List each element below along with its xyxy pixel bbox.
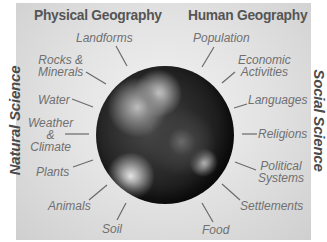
connector-landforms bbox=[116, 46, 127, 66]
label-weather-climate: Weather & Climate bbox=[28, 117, 73, 153]
connector-languages bbox=[234, 104, 247, 108]
connector-food bbox=[202, 203, 213, 222]
label-population: Population bbox=[193, 32, 250, 44]
label-political-systems: Political Systems bbox=[258, 160, 304, 184]
label-food: Food bbox=[202, 224, 229, 236]
label-languages: Languages bbox=[248, 94, 307, 106]
label-settlements: Settlements bbox=[240, 200, 303, 212]
label-religions: Religions bbox=[258, 128, 307, 140]
connector-settlements bbox=[222, 184, 240, 200]
label-landforms: Landforms bbox=[76, 32, 133, 44]
connector-population bbox=[202, 47, 214, 67]
connector-animals bbox=[89, 185, 107, 200]
connector-water bbox=[72, 99, 93, 107]
label-economic-activities: Economic Activities bbox=[238, 54, 291, 78]
connector-political bbox=[235, 162, 256, 170]
earth-globe-image bbox=[96, 66, 234, 204]
connector-soil bbox=[117, 203, 126, 220]
label-animals: Animals bbox=[48, 200, 91, 212]
label-plants: Plants bbox=[36, 166, 69, 178]
label-soil: Soil bbox=[102, 223, 122, 235]
connector-economic bbox=[222, 72, 235, 83]
label-water: Water bbox=[38, 94, 70, 106]
label-rocks-minerals: Rocks & Minerals bbox=[38, 54, 83, 78]
connector-rocks bbox=[86, 72, 106, 84]
connector-plants bbox=[73, 160, 93, 167]
